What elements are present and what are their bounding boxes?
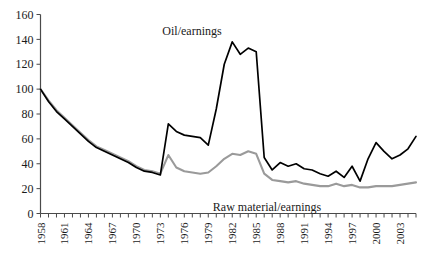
x-axis-tick-label: 1985 <box>250 222 262 245</box>
y-axis-tick-label: 120 <box>16 57 34 71</box>
x-axis-tick-label: 1970 <box>130 222 142 245</box>
series-label-oil-earnings: Oil/earnings <box>162 24 222 38</box>
x-axis-tick-label: 1964 <box>82 222 94 245</box>
x-axis-tick-label: 1961 <box>58 223 70 245</box>
line-chart: 020406080100120140160 195819611964196719… <box>0 0 428 265</box>
y-axis-tick-label: 160 <box>16 8 34 22</box>
x-axis-tick-label: 1973 <box>154 222 166 245</box>
y-axis-tick-label: 40 <box>22 157 34 171</box>
y-axis-tick-label: 140 <box>16 33 34 47</box>
series-layer <box>41 42 417 188</box>
y-axis: 020406080100120140160 <box>16 8 41 221</box>
chart-container: 020406080100120140160 195819611964196719… <box>0 0 428 265</box>
x-axis-tick-label: 1988 <box>274 222 286 245</box>
y-axis-tick-label: 20 <box>22 182 34 196</box>
x-axis-tick-label: 1991 <box>298 223 310 245</box>
series-label-raw-material-earnings: Raw material/earnings <box>213 200 322 214</box>
x-axis-tick-label: 1994 <box>322 222 334 245</box>
y-axis-tick-label: 80 <box>22 107 34 121</box>
y-axis-tick-label: 0 <box>28 207 34 221</box>
y-axis-tick-label: 100 <box>16 82 34 96</box>
series-line-oil-earnings <box>41 42 417 181</box>
x-axis-tick-label: 2000 <box>370 222 382 245</box>
x-axis-tick-label: 1958 <box>35 222 47 245</box>
x-axis-tick-label: 1979 <box>202 222 214 245</box>
x-axis-tick-label: 2003 <box>394 222 406 245</box>
series-line-raw-material-earnings <box>41 89 417 187</box>
x-axis: 1958196119641967197019731976197919821985… <box>35 214 417 245</box>
y-axis-tick-label: 60 <box>22 132 34 146</box>
x-axis-tick-label: 1982 <box>226 223 238 245</box>
x-axis-tick-label: 1976 <box>178 222 190 245</box>
x-axis-tick-label: 1997 <box>346 222 358 245</box>
x-axis-tick-label: 1967 <box>106 222 118 245</box>
